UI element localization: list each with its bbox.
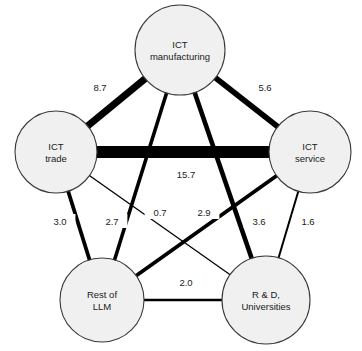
edge-value-ict_manufacturing-to-rd_universities: 3.6 [252,216,265,227]
network-diagram: 8.75.615.73.02.70.72.93.61.62.0 ICTmanuf… [0,0,362,351]
edge-value-ict_trade-to-ict_service: 15.7 [177,169,196,180]
edge-value-ict_trade-to-ict_manufacturing: 8.7 [93,82,106,93]
node-label-line2-rest_of_llm: LLM [93,300,112,311]
edge-value-rest_of_llm-to-rd_universities: 2.0 [179,277,192,288]
node-label-line1-ict_manufacturing: ICT [172,38,188,49]
network-graph-canvas: 8.75.615.73.02.70.72.93.61.62.0 ICTmanuf… [0,0,362,351]
edge-value-ict_trade-to-rest_of_llm: 3.0 [53,216,66,227]
node-label-line2-ict_trade: trade [45,152,67,163]
edge-value-ict_trade-to-rd_universities: 0.7 [153,207,166,218]
node-label-line2-ict_service: service [295,152,325,163]
edge-value-ict_manufacturing-to-ict_service: 5.6 [258,82,271,93]
node-label-line2-rd_universities: Universities [241,300,290,311]
node-label-ict_trade: ICTtrade [45,140,67,163]
edge-value-ict_service-to-rest_of_llm: 2.9 [197,207,210,218]
node-label-line2-ict_manufacturing: manufacturing [150,50,210,61]
node-label-line1-rd_universities: R & D, [252,288,280,299]
edge-value-ict_service-to-rd_universities: 1.6 [301,216,314,227]
edge-labels-layer: 8.75.615.73.02.70.72.93.61.62.0 [45,80,324,289]
node-label-line1-rest_of_llm: Rest of [87,288,117,299]
node-label-line1-ict_service: ICT [302,140,318,151]
node-label-line1-ict_trade: ICT [48,140,64,151]
edge-value-ict_manufacturing-to-rest_of_llm: 2.7 [105,216,118,227]
